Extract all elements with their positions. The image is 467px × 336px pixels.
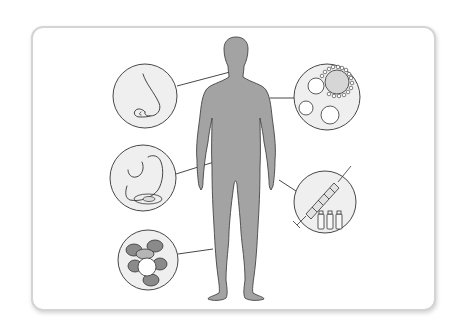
stomach-callout bbox=[110, 145, 176, 211]
cells-callout bbox=[294, 64, 360, 130]
stomach-inner-core bbox=[143, 197, 155, 202]
human-body-figure bbox=[197, 37, 276, 300]
body-diagram bbox=[0, 0, 467, 336]
blood-cell-callout bbox=[118, 230, 178, 290]
connector-blood bbox=[178, 249, 213, 254]
nose-callout bbox=[113, 64, 177, 128]
vaccine-vials bbox=[318, 211, 342, 229]
syringe-callout bbox=[293, 166, 356, 233]
connector-syringe bbox=[279, 180, 296, 191]
connector-stomach bbox=[176, 162, 214, 174]
